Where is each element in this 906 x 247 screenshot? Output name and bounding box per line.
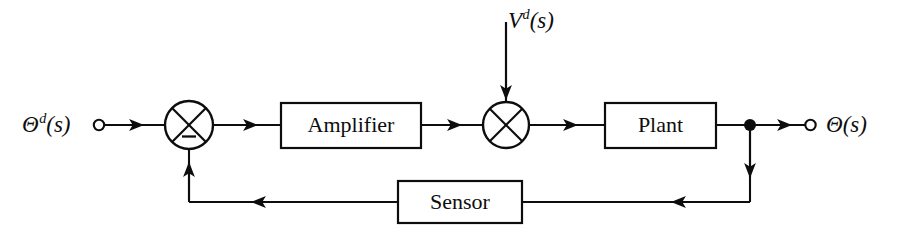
sensor-block-label: Sensor <box>398 191 522 213</box>
input-signal-argument: (s) <box>46 112 70 137</box>
disturbance-signal-superscript: d <box>523 6 530 22</box>
plant-block-label: Plant <box>605 114 716 136</box>
output-signal-label: Θ(s) <box>826 113 867 136</box>
amplifier-block-label: Amplifier <box>281 114 421 136</box>
output-terminal-circle <box>805 120 815 130</box>
input-signal-base: Θ <box>22 112 39 137</box>
output-signal-base: Θ <box>826 112 843 137</box>
disturbance-signal-argument: (s) <box>530 8 554 33</box>
disturbance-signal-label: Vd(s) <box>508 9 554 32</box>
disturbance-signal-base: V <box>508 8 522 33</box>
input-signal-label: Θd(s) <box>22 113 71 136</box>
output-signal-argument: (s) <box>843 112 867 137</box>
input-terminal-circle <box>94 120 104 130</box>
block-diagram-canvas: Θd(s) Vd(s) Θ(s) Amplifier Plant Sensor <box>0 0 906 247</box>
